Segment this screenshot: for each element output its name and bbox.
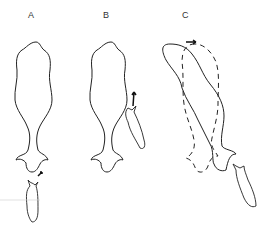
cow-outline-c-solid: [163, 44, 236, 171]
arrow-icon-c: [186, 40, 196, 44]
calf-outline-b: [126, 106, 145, 149]
cow-outline-b: [90, 42, 127, 172]
calf-outline-c: [233, 164, 256, 207]
arrow-icon-a: [38, 172, 42, 176]
arrow-icon-b: [132, 92, 136, 106]
drawing: [0, 0, 274, 237]
calf-outline-a: [26, 180, 38, 222]
cow-outline-c-dashed: [182, 44, 219, 172]
cow-outline-a: [15, 42, 52, 172]
